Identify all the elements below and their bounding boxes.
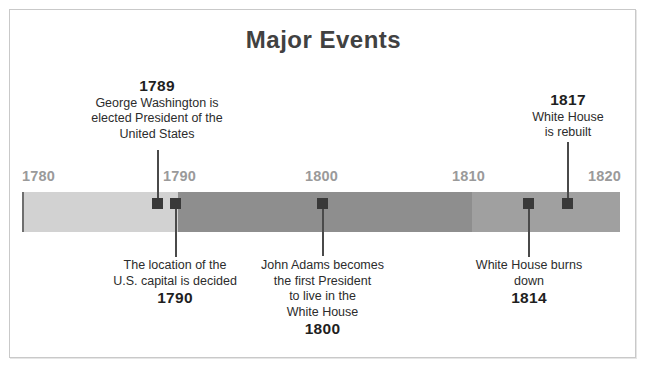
event-description-line: the first President	[250, 274, 395, 290]
event-description-line: White House	[250, 305, 395, 321]
annotation-1789: 1789George Washington iselected Presiden…	[59, 78, 255, 142]
leader-1817	[567, 142, 569, 202]
annotation-1814: White House burnsdown1814	[458, 258, 600, 306]
event-description-line: to live in the	[250, 289, 395, 305]
event-description-line: White House	[497, 110, 639, 126]
event-year-1790: 1790	[92, 290, 258, 306]
annotation-1817: 1817White Houseis rebuilt	[497, 92, 639, 141]
event-description-1790: The location of theU.S. capital is decid…	[92, 258, 258, 289]
tick-label-1810: 1810	[452, 168, 485, 184]
event-year-1789: 1789	[59, 78, 255, 94]
event-description-line: John Adams becomes	[250, 258, 395, 274]
leader-1789	[157, 150, 159, 202]
marker-1790[interactable]	[170, 198, 181, 209]
segment-1810-1820	[472, 192, 620, 232]
event-year-1817: 1817	[497, 92, 639, 108]
event-description-1800: John Adams becomesthe first Presidentto …	[250, 258, 395, 320]
page-title: Major Events	[0, 26, 647, 54]
timeline-track-start-cap	[22, 192, 24, 232]
event-year-1814: 1814	[458, 290, 600, 306]
marker-1789[interactable]	[152, 198, 163, 209]
marker-1817[interactable]	[562, 198, 573, 209]
timeline-infographic: Major Events 17801790180018101820 1789Ge…	[0, 0, 647, 372]
annotation-1790: The location of theU.S. capital is decid…	[92, 258, 258, 306]
event-description-line: The location of the	[92, 258, 258, 274]
marker-1800[interactable]	[317, 198, 328, 209]
event-description-line: United States	[59, 127, 255, 143]
event-description-1789: George Washington iselected President of…	[59, 96, 255, 143]
event-description-line: U.S. capital is decided	[92, 274, 258, 290]
tick-label-1790: 1790	[163, 168, 196, 184]
event-description-line: down	[458, 274, 600, 290]
leader-1790	[175, 203, 177, 257]
tick-label-1800: 1800	[305, 168, 338, 184]
event-description-1817: White Houseis rebuilt	[497, 110, 639, 141]
event-description-line: elected President of the	[59, 111, 255, 127]
event-description-1814: White House burnsdown	[458, 258, 600, 289]
tick-label-1780: 1780	[22, 168, 55, 184]
annotation-1800: John Adams becomesthe first Presidentto …	[250, 258, 395, 337]
event-description-line: is rebuilt	[497, 125, 639, 141]
event-description-line: White House burns	[458, 258, 600, 274]
event-year-1800: 1800	[250, 321, 395, 337]
leader-1814	[528, 203, 530, 257]
event-description-line: George Washington is	[59, 96, 255, 112]
marker-1814[interactable]	[523, 198, 534, 209]
tick-label-1820: 1820	[588, 168, 621, 184]
leader-1800	[322, 203, 324, 256]
